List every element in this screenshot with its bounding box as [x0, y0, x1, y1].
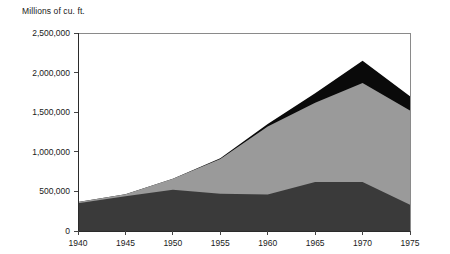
y-tick-label: 500,000	[39, 186, 70, 196]
x-tick-label: 1970	[353, 238, 372, 248]
y-tick-label: 2,000,000	[32, 68, 70, 78]
x-tick-label: 1940	[69, 238, 88, 248]
y-tick-label: 0	[65, 226, 70, 236]
x-axis-labels: 19401945195019551960196519701975	[69, 238, 420, 248]
x-tick-label: 1975	[401, 238, 420, 248]
x-tick-label: 1945	[116, 238, 135, 248]
x-tick-label: 1950	[163, 238, 182, 248]
stacked-areas	[78, 61, 410, 231]
y-axis-labels: 0500,0001,000,0001,500,0002,000,0002,500…	[32, 28, 70, 236]
x-tick-label: 1955	[211, 238, 230, 248]
area-chart: 0500,0001,000,0001,500,0002,000,0002,500…	[0, 0, 450, 254]
y-tick-label: 1,000,000	[32, 147, 70, 157]
chart-page: Millions of cu. ft. 0500,0001,000,0001,5…	[0, 0, 450, 254]
x-tick-label: 1960	[258, 238, 277, 248]
y-tick-label: 2,500,000	[32, 28, 70, 38]
y-tick-label: 1,500,000	[32, 107, 70, 117]
x-tick-label: 1965	[306, 238, 325, 248]
